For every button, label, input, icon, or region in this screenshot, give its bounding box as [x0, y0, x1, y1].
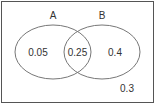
region-b-only-value: 0.4: [108, 47, 122, 58]
set-a-label: A: [50, 10, 57, 21]
venn-diagram: A B 0.05 0.25 0.4 0.3: [0, 0, 156, 107]
region-a-only-value: 0.05: [28, 47, 48, 58]
region-outside-value: 0.3: [120, 83, 134, 94]
region-intersection-value: 0.25: [68, 47, 88, 58]
set-b-label: B: [99, 10, 106, 21]
